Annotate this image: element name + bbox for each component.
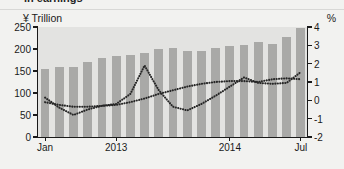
left-tick <box>33 48 37 49</box>
left-tick-label: 100 <box>14 88 31 99</box>
x-tick <box>300 137 301 141</box>
left-tick-label: 0 <box>25 132 31 143</box>
page-title-strip: in earnings <box>0 0 344 9</box>
left-tick-label: 250 <box>14 22 31 33</box>
x-tick-label: Jan <box>37 142 53 153</box>
x-tick-label: 2013 <box>105 142 127 153</box>
left-tick-label: 50 <box>20 110 31 121</box>
plot-area <box>38 27 308 137</box>
left-tick <box>33 26 37 27</box>
right-tick <box>308 118 312 119</box>
right-tick <box>308 63 312 64</box>
left-tick-label: 200 <box>14 44 31 55</box>
right-tick-label: 2 <box>314 58 320 69</box>
right-tick <box>308 26 312 27</box>
left-axis-line <box>37 26 38 138</box>
x-tick-label: 2014 <box>219 142 241 153</box>
page-title: in earnings <box>24 0 83 4</box>
left-tick-label: 150 <box>14 66 31 77</box>
left-tick <box>33 70 37 71</box>
right-tick <box>308 136 312 137</box>
right-tick-label: 0 <box>314 95 320 106</box>
left-tick <box>33 114 37 115</box>
x-tick <box>45 137 46 141</box>
right-axis-unit-label: % <box>327 12 336 24</box>
right-tick <box>308 100 312 101</box>
right-tick-label: 3 <box>314 40 320 51</box>
right-tick-label: -2 <box>314 132 323 143</box>
x-tick <box>116 137 117 141</box>
right-tick-label: 4 <box>314 22 320 33</box>
x-tick-label: Jul <box>294 142 307 153</box>
left-tick <box>33 136 37 137</box>
line-series-layer <box>38 27 308 137</box>
right-tick-label: -1 <box>314 113 323 124</box>
right-tick-label: 1 <box>314 77 320 88</box>
x-tick <box>229 137 230 141</box>
right-tick <box>308 45 312 46</box>
left-tick <box>33 92 37 93</box>
x-axis-line <box>37 137 309 138</box>
right-tick <box>308 81 312 82</box>
title-divider <box>0 9 344 10</box>
